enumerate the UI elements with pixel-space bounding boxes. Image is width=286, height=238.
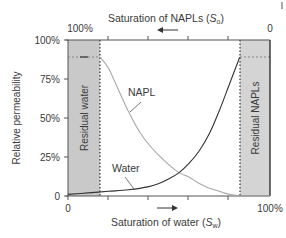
bottom-axis-label: Saturation of water (Sw) (111, 216, 221, 229)
y-axis-label: Relative permeability (11, 72, 22, 165)
y-tick-label-75: 75% (40, 74, 60, 85)
x-ticks-top (108, 36, 228, 40)
x-tick-label-100: 100% (257, 203, 283, 214)
residual-water-label: Residual water (79, 84, 90, 151)
arrow-left-icon (157, 27, 178, 33)
y-tick-label-0: 0 (54, 191, 60, 202)
water-label: Water (112, 162, 140, 174)
x-ticks-bottom (68, 196, 228, 200)
top-axis-label: Saturation of NAPLs (So) (108, 12, 224, 25)
residual-napls-label: Residual NAPLs (250, 82, 261, 155)
y-tick-label-100: 100% (34, 35, 60, 46)
water-leader-line (125, 177, 134, 189)
napl-label: NAPL (128, 86, 156, 98)
arrow-right-icon (157, 205, 178, 211)
x2-tick-label-0: 0 (267, 23, 273, 34)
y-tick-label-25: 25% (40, 152, 60, 163)
y-tick-label-50: 50% (40, 113, 60, 124)
x-tick-label-0: 0 (65, 203, 71, 214)
napl-leader-line (130, 102, 141, 112)
relative-permeability-chart: NAPL Water Residual water Residual NAPLs… (0, 0, 286, 238)
y-ticks (64, 40, 68, 196)
x2-tick-label-100: 100% (67, 23, 93, 34)
